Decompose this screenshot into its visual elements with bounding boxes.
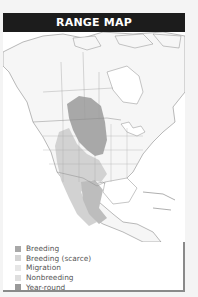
legend-label: Migration <box>26 263 61 272</box>
range-map-title: RANGE MAP <box>3 13 185 32</box>
north-america-map <box>3 32 185 242</box>
legend-item-nonbreeding: Nonbreeding <box>15 273 91 283</box>
map-legend: Breeding Breeding (scarce) Migration Non… <box>15 244 91 292</box>
legend-item-breeding-scarce: Breeding (scarce) <box>15 254 91 264</box>
legend-item-year-round: Year-round <box>15 282 91 292</box>
legend-label: Nonbreeding <box>26 273 74 282</box>
range-map-card: RANGE MAP Breeding Breeding (scar <box>3 13 185 292</box>
legend-label: Breeding <box>26 244 59 253</box>
nonbreeding-swatch <box>15 275 21 281</box>
migration-swatch <box>15 265 21 271</box>
legend-item-breeding: Breeding <box>15 244 91 254</box>
breeding-scarce-swatch <box>15 255 21 261</box>
legend-label: Breeding (scarce) <box>26 254 91 263</box>
legend-label: Year-round <box>26 283 65 292</box>
year-round-swatch <box>15 284 21 290</box>
legend-item-migration: Migration <box>15 263 91 273</box>
breeding-swatch <box>15 246 21 252</box>
